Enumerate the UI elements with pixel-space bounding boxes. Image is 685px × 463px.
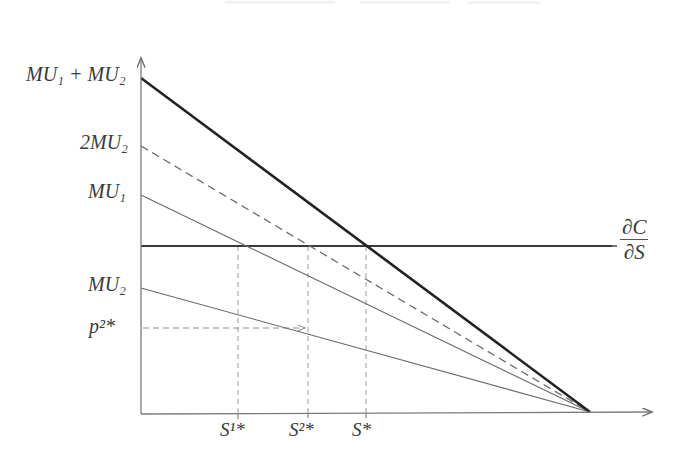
tick-label-s2-star: S²* bbox=[289, 420, 314, 439]
economics-diagram-figure: MU₁ + MU₂ 2MU₂ MU₁ MU₂ p²* S¹* S²* S* ∂C… bbox=[0, 0, 685, 463]
curve-label-mu1-plus-mu2: MU₁ + MU₂ bbox=[26, 64, 126, 84]
x-axis bbox=[141, 412, 652, 414]
curve-label-mu2: MU₂ bbox=[88, 274, 126, 294]
tick-label-s-star: S* bbox=[352, 420, 371, 439]
marginal-cost-numerator: ∂C bbox=[620, 216, 648, 239]
mu1-curve bbox=[141, 195, 590, 412]
mu1-plus-mu2-curve bbox=[141, 78, 590, 412]
curve-label-mu1: MU₁ bbox=[88, 181, 126, 201]
guide-lines bbox=[143, 246, 366, 414]
marginal-cost-denominator: ∂S bbox=[620, 239, 648, 263]
curve-label-two-mu2: 2MU₂ bbox=[80, 132, 128, 152]
marginal-cost-label: ∂C ∂S bbox=[620, 216, 648, 264]
tick-label-s1-star: S¹* bbox=[220, 420, 245, 439]
price-label-p2-star: p²* bbox=[89, 316, 115, 336]
